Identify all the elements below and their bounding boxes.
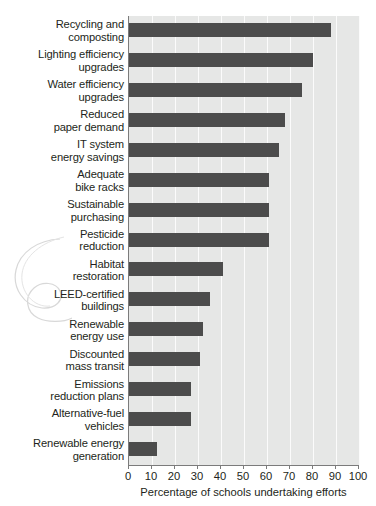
bar-row [129,136,359,166]
x-axis-tick-label: 60 [260,470,272,483]
x-axis-tick [220,465,221,469]
bar-row [129,76,359,106]
x-axis-tick [243,465,244,469]
y-axis-label-line: Habitat [90,258,124,271]
bar-row [129,315,359,345]
x-axis-tick-label: 70 [283,470,295,483]
bar [129,262,223,276]
y-axis-label-line: IT system [77,138,124,151]
x-axis-tick [128,465,129,469]
y-axis-label-line: Emissions [74,378,124,391]
y-axis-label-line: restoration [73,270,124,283]
y-axis-label-line: composting [68,31,124,44]
y-axis-label-line: Discounted [70,348,124,361]
y-axis-label-line: Renewable energy [33,437,124,450]
y-axis-label-line: upgrades [79,91,124,104]
y-axis-label-line: Pesticide [80,228,124,241]
bar-row [129,226,359,256]
plot-area [128,16,359,465]
x-axis-title: Percentage of schools undertaking effort… [128,486,359,498]
bar [129,173,269,187]
y-axis-label-line: bike racks [75,181,124,194]
bar [129,382,191,396]
y-axis-label: Water efficiencyupgrades [0,76,124,106]
bar [129,442,157,456]
y-axis-label-line: vehicles [85,420,124,433]
x-axis-tick [266,465,267,469]
bar-row [129,435,359,465]
y-axis-label-line: reduction [79,240,124,253]
x-axis-tick [197,465,198,469]
bar-row [129,345,359,375]
y-axis-label: IT systemenergy savings [0,136,124,166]
y-axis-label: Pesticidereduction [0,226,124,256]
bar [129,233,269,247]
y-axis-label: Recycling andcomposting [0,16,124,46]
bar [129,412,191,426]
y-axis-label-line: Lighting efficiency [38,48,124,61]
y-axis-label-line: Recycling and [56,18,124,31]
y-axis-label-line: Alternative-fuel [52,407,124,420]
bar-row [129,16,359,46]
y-axis-label-line: Water efficiency [47,78,124,91]
bar [129,113,285,127]
y-axis-label: Renewableenergy use [0,315,124,345]
y-axis-label: Alternative-fuelvehicles [0,405,124,435]
y-axis-label: Habitatrestoration [0,255,124,285]
bar [129,53,313,67]
x-axis-tick-label: 10 [145,470,157,483]
y-axis-label: Renewable energygeneration [0,435,124,465]
bar [129,23,331,37]
y-axis-label-line: Adequate [77,168,124,181]
y-axis-label: Lighting efficiencyupgrades [0,46,124,76]
bar-row [129,405,359,435]
y-axis-label: Sustainablepurchasing [0,196,124,226]
y-axis-label: LEED-certifiedbuildings [0,285,124,315]
bar-row [129,375,359,405]
bar [129,292,210,306]
y-axis-label-line: buildings [81,300,124,313]
y-axis-label-line: Reduced [80,108,124,121]
x-axis-tick-label: 30 [191,470,203,483]
y-axis-label-line: mass transit [65,360,124,373]
x-axis-tick [174,465,175,469]
y-axis-label-line: LEED-certified [54,288,124,301]
y-axis-label: Reducedpaper demand [0,106,124,136]
bar [129,322,203,336]
y-axis-label-line: purchasing [71,211,124,224]
gridline-100 [359,16,360,465]
bar-chart: Recycling andcompostingLighting efficien… [0,0,376,506]
x-axis-tick-label: 0 [125,470,131,483]
x-axis-tick [312,465,313,469]
bar-row [129,46,359,76]
x-axis-tick [335,465,336,469]
x-axis-tick [358,465,359,469]
y-axis-label-line: reduction plans [50,390,124,403]
x-axis-tick-label: 40 [214,470,226,483]
bar [129,143,279,157]
y-axis-label-line: Renewable [69,318,124,331]
y-axis-label: Emissionsreduction plans [0,375,124,405]
bar-row [129,285,359,315]
y-axis-label-line: upgrades [79,61,124,74]
bars-layer [129,16,359,465]
bar-row [129,255,359,285]
x-axis-tick-label: 90 [329,470,341,483]
y-axis-label: Discountedmass transit [0,345,124,375]
bar [129,83,302,97]
x-axis-tick [151,465,152,469]
bar-row [129,166,359,196]
y-axis-labels: Recycling andcompostingLighting efficien… [0,16,124,465]
x-axis-tick-label: 50 [237,470,249,483]
bar-row [129,196,359,226]
x-axis-tick [289,465,290,469]
y-axis-label-line: energy use [70,330,124,343]
bar [129,203,269,217]
y-axis-label-line: generation [73,450,124,463]
y-axis-label-line: paper demand [54,121,124,134]
y-axis-label-line: Sustainable [67,198,124,211]
y-axis-label-line: energy savings [51,151,124,164]
x-axis-tick-label: 100 [349,470,368,483]
y-axis-label: Adequatebike racks [0,166,124,196]
x-axis-tick-label: 80 [306,470,318,483]
